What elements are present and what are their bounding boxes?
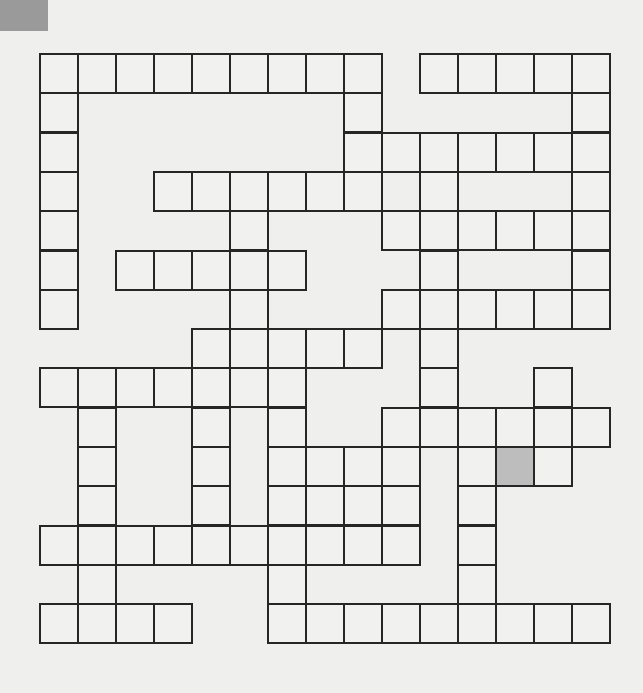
grid-cell[interactable]: [343, 53, 383, 94]
grid-cell[interactable]: [229, 525, 269, 566]
grid-cell[interactable]: [419, 367, 459, 408]
grid-cell[interactable]: [191, 328, 231, 369]
grid-cell[interactable]: [571, 171, 611, 212]
grid-cell[interactable]: [267, 407, 307, 448]
grid-cell[interactable]: [571, 53, 611, 94]
grid-cell[interactable]: [39, 132, 79, 173]
grid-cell[interactable]: [267, 446, 307, 487]
grid-cell[interactable]: [153, 250, 193, 291]
grid-cell[interactable]: [229, 328, 269, 369]
grid-cell[interactable]: [267, 525, 307, 566]
grid-cell[interactable]: [77, 564, 117, 605]
grid-cell[interactable]: [191, 407, 231, 448]
grid-cell[interactable]: [115, 250, 155, 291]
grid-cell[interactable]: [39, 171, 79, 212]
grid-cell[interactable]: [305, 525, 345, 566]
grid-cell[interactable]: [267, 485, 307, 526]
grid-cell[interactable]: [77, 53, 117, 94]
grid-cell[interactable]: [115, 367, 155, 408]
grid-cell[interactable]: [39, 210, 79, 251]
grid-cell[interactable]: [419, 53, 459, 94]
grid-cell[interactable]: [419, 210, 459, 251]
grid-cell[interactable]: [343, 485, 383, 526]
grid-cell[interactable]: [343, 446, 383, 487]
grid-cell[interactable]: [191, 485, 231, 526]
grid-cell[interactable]: [495, 603, 535, 644]
grid-cell[interactable]: [305, 485, 345, 526]
grid-cell[interactable]: [495, 289, 535, 330]
grid-cell[interactable]: [39, 525, 79, 566]
grid-cell[interactable]: [39, 367, 79, 408]
grid-cell[interactable]: [457, 564, 497, 605]
grid-cell[interactable]: [457, 525, 497, 566]
grid-cell[interactable]: [343, 132, 383, 173]
grid-cell[interactable]: [153, 603, 193, 644]
grid-cell[interactable]: [571, 132, 611, 173]
grid-cell[interactable]: [533, 132, 573, 173]
grid-cell[interactable]: [305, 603, 345, 644]
grid-cell[interactable]: [571, 92, 611, 133]
grid-cell[interactable]: [457, 407, 497, 448]
grid-cell[interactable]: [533, 407, 573, 448]
grid-cell[interactable]: [343, 525, 383, 566]
grid-cell[interactable]: [495, 407, 535, 448]
grid-cell[interactable]: [419, 603, 459, 644]
grid-cell[interactable]: [533, 603, 573, 644]
grid-cell[interactable]: [495, 53, 535, 94]
grid-cell[interactable]: [153, 171, 193, 212]
grid-cell[interactable]: [343, 171, 383, 212]
grid-cell[interactable]: [153, 53, 193, 94]
grid-cell[interactable]: [153, 367, 193, 408]
grid-cell[interactable]: [571, 603, 611, 644]
grid-cell[interactable]: [419, 289, 459, 330]
grid-cell[interactable]: [457, 485, 497, 526]
grid-cell[interactable]: [419, 328, 459, 369]
grid-cell[interactable]: [191, 367, 231, 408]
grid-cell[interactable]: [191, 525, 231, 566]
grid-cell[interactable]: [115, 53, 155, 94]
grid-cell[interactable]: [419, 407, 459, 448]
grid-cell[interactable]: [153, 525, 193, 566]
grid-cell[interactable]: [191, 53, 231, 94]
grid-cell[interactable]: [495, 210, 535, 251]
grid-cell[interactable]: [229, 210, 269, 251]
grid-cell[interactable]: [457, 132, 497, 173]
grid-cell[interactable]: [381, 132, 421, 173]
grid-cell[interactable]: [39, 92, 79, 133]
grid-cell[interactable]: [77, 446, 117, 487]
grid-cell[interactable]: [229, 171, 269, 212]
grid-cell[interactable]: [381, 407, 421, 448]
grid-cell[interactable]: [267, 171, 307, 212]
grid-cell[interactable]: [267, 328, 307, 369]
grid-cell[interactable]: [229, 289, 269, 330]
grid-cell[interactable]: [381, 210, 421, 251]
grid-cell[interactable]: [381, 289, 421, 330]
grid-cell[interactable]: [267, 603, 307, 644]
shaded-grid-cell[interactable]: [495, 446, 535, 487]
grid-cell[interactable]: [191, 171, 231, 212]
grid-cell[interactable]: [39, 250, 79, 291]
grid-cell[interactable]: [267, 564, 307, 605]
grid-cell[interactable]: [39, 603, 79, 644]
grid-cell[interactable]: [191, 250, 231, 291]
grid-cell[interactable]: [533, 367, 573, 408]
grid-cell[interactable]: [305, 328, 345, 369]
grid-cell[interactable]: [571, 407, 611, 448]
grid-cell[interactable]: [267, 367, 307, 408]
grid-cell[interactable]: [571, 210, 611, 251]
grid-cell[interactable]: [191, 446, 231, 487]
grid-cell[interactable]: [229, 250, 269, 291]
grid-cell[interactable]: [457, 446, 497, 487]
grid-cell[interactable]: [457, 603, 497, 644]
grid-cell[interactable]: [571, 289, 611, 330]
grid-cell[interactable]: [381, 603, 421, 644]
grid-cell[interactable]: [267, 53, 307, 94]
grid-cell[interactable]: [457, 289, 497, 330]
grid-cell[interactable]: [267, 250, 307, 291]
grid-cell[interactable]: [571, 250, 611, 291]
grid-cell[interactable]: [77, 407, 117, 448]
grid-cell[interactable]: [77, 603, 117, 644]
grid-cell[interactable]: [533, 210, 573, 251]
grid-cell[interactable]: [229, 367, 269, 408]
grid-cell[interactable]: [457, 210, 497, 251]
